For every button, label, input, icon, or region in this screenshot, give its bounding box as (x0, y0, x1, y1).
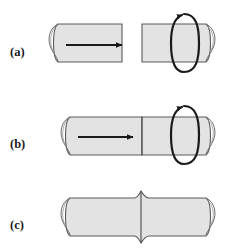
row-a-right-cylinder (142, 24, 215, 62)
right-cylinder-body (142, 24, 211, 62)
row-c: (c) (10, 191, 215, 243)
stage-label-b: (b) (10, 137, 25, 151)
row-c-welded-bar (61, 191, 215, 243)
row-a: (a) (10, 14, 215, 72)
welded-bar-body (66, 191, 211, 243)
left-cylinder-body (54, 24, 123, 62)
stage-label-a: (a) (10, 45, 25, 59)
friction-welding-figure: (a) (b) (0, 0, 233, 251)
row-b-right-cylinder (142, 117, 215, 155)
figure-canvas: (a) (b) (0, 0, 233, 251)
row-a-left-cylinder (49, 24, 122, 62)
right-cylinder-body (142, 117, 211, 155)
stage-label-c: (c) (10, 218, 24, 232)
row-b: (b) (10, 106, 215, 164)
